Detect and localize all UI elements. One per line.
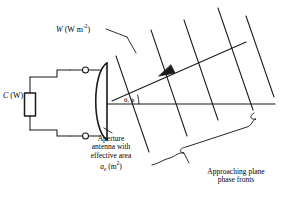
circuit-lower-wire <box>30 130 70 136</box>
angle-arc <box>138 95 139 104</box>
flux-density-label: W (W m-2) <box>56 23 90 35</box>
wavefront-caption-line2: phase fronts <box>218 175 254 184</box>
angle-label: θ, ϕ <box>124 97 135 105</box>
aperture-leader-line <box>104 128 112 133</box>
received-power-label: C (W) <box>3 92 23 101</box>
aperture-caption: Aperture antenna with effective area ae … <box>73 135 149 172</box>
phase-front-line <box>184 20 218 120</box>
load-resistor-box <box>25 93 36 116</box>
incidence-ray-line <box>112 42 246 101</box>
aperture-caption-line3: effective area <box>91 151 131 160</box>
flux-leader-line-tail <box>127 37 136 53</box>
wavefront-caption: Approaching plane phase fronts <box>193 168 279 185</box>
flux-density-units-close: ) <box>87 25 90 34</box>
flux-density-units-open: (W m <box>63 25 83 34</box>
circuit-upper-wire <box>30 70 70 77</box>
received-power-units: (W) <box>8 91 23 100</box>
flux-leader-line <box>106 29 127 37</box>
aperture-units-close: ) <box>119 162 122 171</box>
wavefront-brace <box>152 113 256 165</box>
phase-front-line <box>151 30 187 136</box>
phase-front-line <box>218 8 253 110</box>
terminal-upper-icon <box>83 67 89 73</box>
phase-front-line <box>246 16 274 97</box>
brace-leader-line <box>184 153 189 163</box>
flux-density-symbol: W <box>56 25 63 34</box>
aperture-units-open: (m <box>106 162 116 171</box>
